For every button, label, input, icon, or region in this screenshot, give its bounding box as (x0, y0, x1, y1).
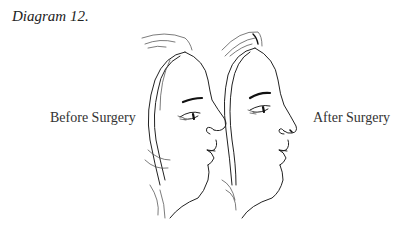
profiles-illustration (0, 0, 410, 230)
before-profile (142, 34, 226, 218)
after-profile (222, 32, 297, 218)
